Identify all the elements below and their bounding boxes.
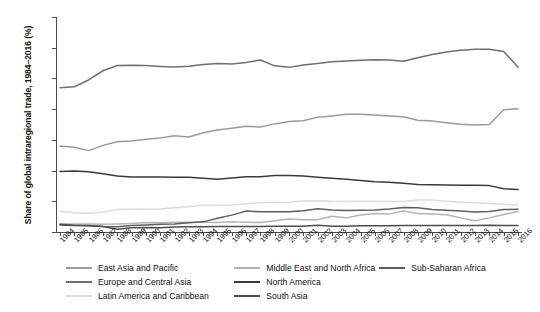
- legend-label: Europe and Central Asia: [98, 278, 191, 287]
- chart-legend: East Asia and PacificMiddle East and Nor…: [66, 264, 526, 306]
- legend-label: East Asia and Pacific: [98, 264, 178, 273]
- y-axis-title: Share of global intraregional trade, 198…: [23, 10, 33, 240]
- legend-swatch-icon: [234, 267, 260, 269]
- legend-item[interactable]: Middle East and North Africa: [234, 264, 379, 273]
- legend-item[interactable]: North America: [234, 278, 379, 287]
- legend-item[interactable]: Europe and Central Asia: [66, 278, 234, 287]
- legend-swatch-icon: [66, 295, 92, 297]
- legend-row: East Asia and PacificMiddle East and Nor…: [66, 264, 526, 278]
- y-tick: [52, 232, 56, 233]
- legend-label: Middle East and North Africa: [266, 264, 375, 273]
- series-line: [60, 109, 518, 151]
- legend-label: North America: [266, 278, 320, 287]
- legend-row: Latin America and CaribbeanSouth Asia: [66, 292, 526, 306]
- legend-label: Latin America and Caribbean: [98, 292, 209, 301]
- series-line: [60, 49, 518, 87]
- series-line: [60, 211, 518, 224]
- legend-swatch-icon: [234, 281, 260, 283]
- legend-item[interactable]: Latin America and Caribbean: [66, 292, 234, 301]
- plot-area: [56, 17, 522, 232]
- legend-swatch-icon: [234, 295, 260, 297]
- legend-item[interactable]: Sub-Saharan Africa: [379, 264, 526, 273]
- legend-swatch-icon: [379, 267, 405, 269]
- legend-swatch-icon: [66, 281, 92, 283]
- legend-swatch-icon: [66, 267, 92, 269]
- legend-label: Sub-Saharan Africa: [411, 264, 486, 273]
- legend-item[interactable]: East Asia and Pacific: [66, 264, 234, 273]
- legend-label: South Asia: [266, 292, 307, 301]
- legend-item[interactable]: South Asia: [234, 292, 379, 301]
- series-line: [60, 171, 518, 190]
- series-lines: [56, 17, 522, 232]
- chart-container: Share of global intraregional trade, 198…: [0, 0, 540, 312]
- legend-row: Europe and Central AsiaNorth America: [66, 278, 526, 292]
